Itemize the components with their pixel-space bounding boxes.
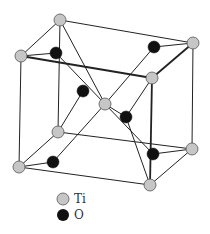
ti-atom-icon [54,14,66,26]
crystal-structure-diagram: Ti O [0,0,210,234]
legend-ti-label: Ti [74,192,86,206]
ti-atom-icon [15,50,27,62]
legend-ti-swatch-icon [57,193,69,205]
bond-line [58,91,83,132]
bond-line [150,78,152,185]
o-atom-icon [120,111,132,123]
ti-atom-icon [144,179,156,191]
o-atom-icon [47,156,59,168]
o-atom-icon [77,85,89,97]
o-atom-icon [148,41,160,53]
bond-line [126,117,150,185]
bond-line [19,167,150,185]
unit-cell-figure [0,0,210,234]
legend-o-swatch-icon [57,209,69,221]
bond-line [192,43,193,149]
legend-o-label: O [74,208,84,222]
bond-line [126,78,152,117]
ti-atom-icon [186,143,198,155]
atoms [13,14,199,191]
bond-line [21,56,152,78]
ti-atom-icon [187,37,199,49]
ti-atom-icon [13,161,25,173]
legend [57,193,69,221]
bond-line [58,20,60,132]
o-atom-icon [50,47,62,59]
bond-line [60,20,193,43]
o-atom-icon [147,148,159,160]
ti-atom-icon [146,72,158,84]
bond-line [19,56,21,167]
ti-atom-icon [52,126,64,138]
ti-atom-icon [99,98,111,110]
bond-line [105,104,153,154]
bond-line [58,132,192,149]
